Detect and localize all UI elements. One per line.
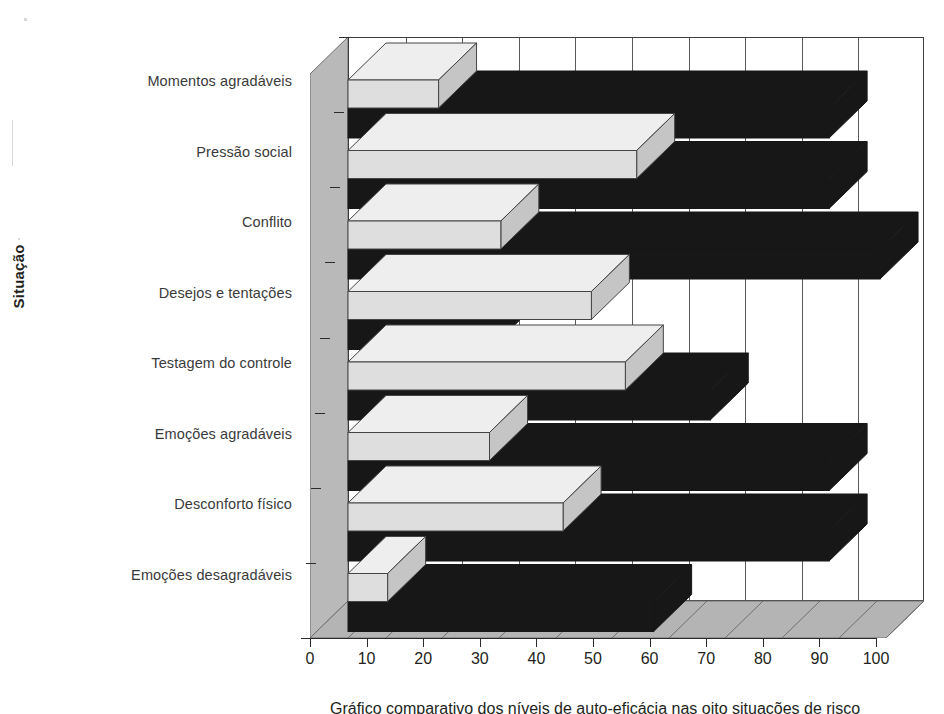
bar-light-4 <box>348 325 663 390</box>
y-tick <box>306 563 316 564</box>
category-label: Momentos agradáveis <box>0 73 292 89</box>
x-tick <box>706 638 707 647</box>
bar-light-3 <box>348 255 629 320</box>
x-tick <box>650 638 651 647</box>
x-tick-label: 30 <box>457 650 503 668</box>
x-tick <box>536 638 537 647</box>
x-tick <box>763 638 764 647</box>
bar-light-6 <box>348 466 601 531</box>
bar-group <box>310 37 924 638</box>
bar-light-1 <box>348 114 675 179</box>
x-tick-label: 80 <box>740 650 786 668</box>
x-tick-label: 60 <box>627 650 673 668</box>
category-label: Desejos e tentações <box>0 285 292 301</box>
x-tick <box>310 638 311 647</box>
category-label: Emoções desagradáveis <box>0 567 292 583</box>
x-tick-label: 100 <box>853 650 899 668</box>
x-tick-label: 50 <box>570 650 616 668</box>
y-tick <box>330 187 340 188</box>
bar-chart: Situação Momentos agradáveisPressão soci… <box>0 0 944 714</box>
category-label: Conflito <box>0 214 292 230</box>
x-tick <box>423 638 424 647</box>
y-tick <box>334 112 344 113</box>
y-tick <box>311 488 321 489</box>
y-tick <box>339 37 349 38</box>
x-tick <box>367 638 368 647</box>
category-label-group: Momentos agradáveisPressão socialConflit… <box>0 37 302 638</box>
y-tick <box>325 262 335 263</box>
category-label: Emoções agradáveis <box>0 426 292 442</box>
category-label: Pressão social <box>0 144 292 160</box>
x-tick <box>593 638 594 647</box>
x-tick-label: 10 <box>344 650 390 668</box>
y-tick <box>320 338 330 339</box>
x-tick-label: 90 <box>796 650 842 668</box>
x-tick <box>876 638 877 647</box>
x-tick <box>480 638 481 647</box>
bars-canvas <box>310 37 924 638</box>
x-tick-label: 70 <box>683 650 729 668</box>
x-tick <box>819 638 820 647</box>
plot-area <box>310 37 924 638</box>
y-tick <box>315 413 325 414</box>
category-label: Desconforto físico <box>0 496 292 512</box>
scan-artifact <box>24 18 27 21</box>
category-label: Testagem do controle <box>0 355 292 371</box>
x-axis: 0102030405060708090100 <box>310 638 890 698</box>
x-tick-label: 0 <box>287 650 333 668</box>
figure-caption: Gráfico comparativo dos níveis de auto-e… <box>330 700 930 714</box>
bar-light-2 <box>348 184 539 249</box>
x-tick-label: 20 <box>400 650 446 668</box>
x-tick-label: 40 <box>513 650 559 668</box>
